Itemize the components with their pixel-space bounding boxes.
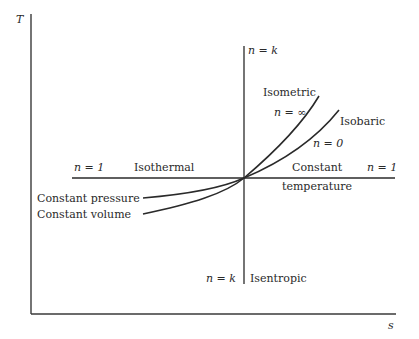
isentropic-bottom-n-label: n = k — [206, 272, 236, 285]
isentropic-top-n-label: n = k — [248, 44, 278, 57]
constant-temperature-label-line1: Constant — [292, 161, 343, 174]
y-axis-label: T — [16, 13, 25, 26]
isentropic-label: Isentropic — [250, 272, 307, 285]
constant-volume-label: Constant volume — [37, 208, 131, 221]
constant-temperature-label-line2: temperature — [282, 180, 352, 193]
isometric-n-label: n = ∞ — [274, 106, 306, 119]
isometric-label: Isometric — [263, 86, 316, 99]
isothermal-left-n-label: n = 1 — [74, 161, 104, 174]
isothermal-right-n-label: n = 1 — [367, 161, 397, 174]
isothermal-label: Isothermal — [134, 161, 195, 174]
x-axis-label: s — [388, 319, 394, 332]
constant-pressure-label: Constant pressure — [37, 192, 140, 205]
isobaric-label: Isobaric — [340, 115, 385, 128]
ts-diagram: T s n = k n = k Isentropic n = 1 Isother… — [0, 0, 419, 339]
isobaric-n-label: n = 0 — [313, 137, 343, 150]
